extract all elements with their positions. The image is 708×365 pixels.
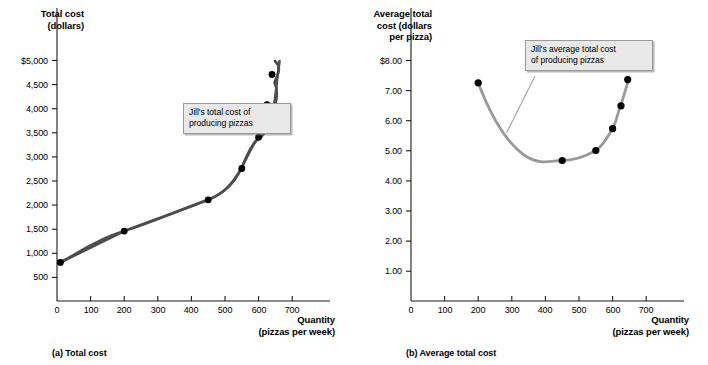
y-ticks-b	[406, 61, 411, 272]
average-total-cost-curve	[478, 80, 628, 162]
data-point-tc-3	[205, 196, 212, 203]
data-point-tc-7	[269, 71, 276, 78]
plot-svg-total-cost	[0, 0, 354, 365]
callout-total-cost: Jill's total cost of producing pizzas	[183, 103, 291, 134]
data-point-tc-4	[238, 165, 245, 172]
total-cost-curve-smooth	[60, 61, 279, 262]
data-point-atc-4	[609, 125, 616, 132]
callout-average-total-cost: Jill's average total cost of producing p…	[525, 40, 653, 71]
data-point-tc-2	[121, 228, 128, 235]
callout-leader-b	[507, 76, 536, 133]
data-point-atc-5	[617, 102, 624, 109]
total-cost-curve	[60, 61, 278, 262]
cost-curves-figure: Total cost (dollars) Quantity (pizzas pe…	[0, 0, 708, 365]
data-point-atc-6	[624, 76, 631, 83]
data-point-tc-1	[57, 259, 64, 266]
x-ticks-a	[91, 296, 293, 301]
x-ticks-b	[445, 296, 647, 301]
data-point-tc-5	[255, 134, 262, 141]
data-point-atc-3	[592, 147, 599, 154]
y-ticks-a	[52, 61, 57, 278]
data-point-atc-1	[475, 79, 482, 86]
data-point-atc-2	[559, 157, 566, 164]
panel-total-cost: Total cost (dollars) Quantity (pizzas pe…	[0, 0, 354, 365]
